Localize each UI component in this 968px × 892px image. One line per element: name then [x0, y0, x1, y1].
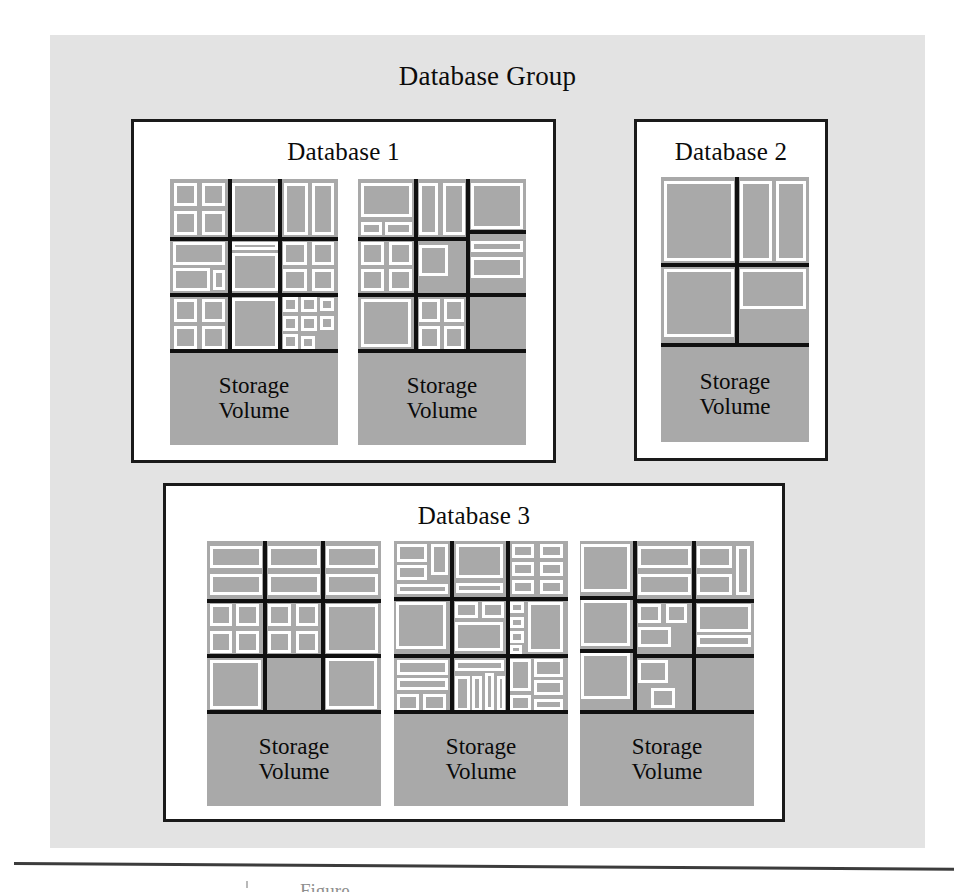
treemap-leaf — [210, 574, 262, 594]
caption-divider-rule — [14, 862, 954, 871]
treemap-divider-horizontal — [450, 597, 510, 601]
treemap-leaf — [283, 334, 298, 349]
treemap-cell — [394, 656, 452, 714]
treemap-cell — [468, 232, 526, 295]
treemap-cell — [468, 295, 526, 353]
treemap-leaf — [444, 299, 465, 322]
treemap-divider-horizontal — [692, 654, 754, 658]
treemap-cell — [170, 239, 230, 295]
treemap-divider-vertical — [735, 177, 739, 347]
treemap-divider-horizontal — [263, 599, 324, 603]
treemap-leaf — [512, 580, 535, 594]
treemap-leaf — [534, 680, 563, 695]
treemap-cell — [230, 239, 280, 295]
database-box-2[interactable]: Database 2 Storage Volume — [634, 119, 828, 461]
treemap-leaf — [666, 604, 687, 623]
treemap-divider-horizontal — [394, 654, 454, 658]
treemap-leaf — [471, 183, 523, 229]
treemap-cell — [358, 239, 416, 295]
treemap-leaf — [419, 245, 448, 276]
treemap-leaf — [419, 326, 440, 349]
treemap-divider-vertical — [450, 541, 454, 714]
treemap-divider-horizontal — [661, 263, 739, 267]
treemap-divider-horizontal — [735, 263, 809, 267]
treemap-leaf — [361, 183, 412, 218]
treemap-leaf — [174, 211, 198, 235]
treemap-leaf — [512, 544, 535, 558]
treemap-divider-horizontal — [358, 293, 418, 297]
treemap-divider-horizontal — [207, 599, 267, 603]
treemap-leaf — [528, 602, 563, 652]
treemap-divider-horizontal — [170, 293, 232, 297]
treemap-leaf — [389, 242, 412, 264]
treemap-leaf — [482, 602, 504, 618]
storage-volume-label-line2: Volume — [631, 760, 702, 785]
treemap-leaf — [397, 678, 448, 690]
treemap-leaf — [443, 183, 465, 236]
treemap-leaf — [326, 546, 378, 569]
treemap-leaf — [455, 602, 478, 618]
treemap-leaf — [638, 627, 671, 647]
storage-volume-label-line1: Storage — [446, 735, 516, 760]
storage-volume-label: Storage Volume — [394, 714, 568, 806]
treemap-leaf — [210, 660, 261, 710]
treemap-divider-horizontal — [450, 654, 510, 658]
treemap-leaf — [283, 297, 298, 312]
storage-volume-label-line1: Storage — [219, 374, 289, 399]
treemap-leaf — [312, 269, 334, 291]
treemap-leaf — [697, 546, 732, 569]
storage-volume-label: Storage Volume — [580, 714, 754, 806]
database-title-3: Database 3 — [166, 503, 782, 528]
treemap-leaf — [540, 562, 563, 576]
treemap-cell — [280, 239, 338, 295]
treemap-leaf — [638, 660, 668, 683]
treemap-divider-horizontal — [414, 237, 470, 241]
treemap-leaf — [740, 181, 772, 261]
treemap-leaf — [510, 695, 530, 710]
storage-volume[interactable]: Storage Volume — [661, 177, 809, 442]
storage-volume-label-line2: Volume — [218, 399, 289, 424]
storage-volume[interactable]: Storage Volume — [358, 179, 526, 445]
storage-volume-label-line2: Volume — [445, 760, 516, 785]
storage-volume-label-line1: Storage — [700, 370, 770, 395]
treemap-cell — [280, 295, 338, 353]
treemap-cell — [452, 656, 508, 714]
treemap-cell — [323, 541, 381, 601]
treemap-leaf — [664, 181, 734, 261]
treemap-leaf — [471, 257, 523, 278]
treemap-leaf — [472, 676, 482, 711]
treemap-leaf — [456, 544, 504, 578]
treemap-cell — [508, 656, 568, 714]
treemap-leaf — [697, 635, 751, 647]
treemap-leaf — [455, 676, 469, 711]
storage-volume[interactable]: Storage Volume — [170, 179, 338, 445]
treemap-cell — [416, 179, 468, 239]
storage-volume-label-line1: Storage — [632, 735, 702, 760]
treemap-leaf — [651, 688, 675, 708]
treemap-cell — [230, 179, 280, 239]
treemap-leaf — [397, 660, 448, 675]
treemap-cell — [508, 599, 568, 656]
treemap-cell — [207, 601, 265, 656]
storage-volume[interactable]: Storage Volume — [207, 541, 381, 806]
treemap-leaf — [361, 222, 382, 235]
database-box-1[interactable]: Database 1 Storage Volume Storage Volume — [131, 119, 556, 463]
storage-volume[interactable]: Storage Volume — [580, 541, 754, 806]
storage-volume[interactable]: Storage Volume — [394, 541, 568, 806]
treemap-divider-horizontal — [633, 599, 696, 603]
treemap-divider-horizontal — [580, 649, 637, 653]
treemap-leaf — [210, 631, 232, 653]
treemap-divider-vertical — [414, 179, 418, 353]
treemap-leaf — [301, 297, 316, 312]
treemap-leaf — [638, 546, 691, 569]
treemap-cell — [170, 179, 230, 239]
treemap-leaf — [485, 673, 494, 710]
treemap-leaf — [301, 336, 315, 350]
treemap-leaf — [232, 183, 277, 236]
treemap-leaf — [697, 574, 732, 594]
treemap-leaf — [173, 242, 225, 264]
treemap-cell — [508, 541, 568, 599]
database-box-3[interactable]: Database 3 Storage Volume Storage Volume… — [163, 483, 785, 822]
treemap-leaf — [497, 676, 505, 711]
treemap-leaf — [444, 326, 465, 349]
